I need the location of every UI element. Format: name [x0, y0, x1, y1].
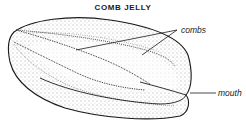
label-combs: combs [181, 25, 206, 35]
label-mouth: mouth [218, 88, 242, 98]
comb-jelly-illustration [0, 0, 246, 135]
